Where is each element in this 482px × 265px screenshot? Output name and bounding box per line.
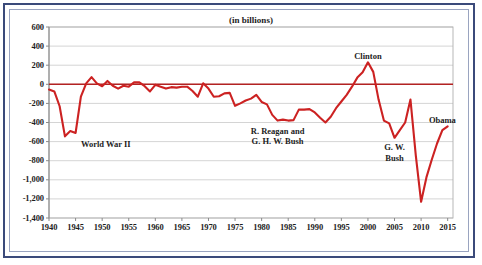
y-axis-tick-label: -200 bbox=[4, 98, 44, 108]
y-axis-tick-label: -400 bbox=[4, 117, 44, 127]
y-axis-tick-label: -1,400 bbox=[4, 213, 44, 223]
y-axis-tick-label: -800 bbox=[4, 155, 44, 165]
y-axis-tick-label: -1,200 bbox=[4, 193, 44, 203]
annotation-reagan-ghw-bush: R. Reagan andG. H. W. Bush bbox=[238, 126, 318, 147]
annotation-clinton: Clinton bbox=[328, 51, 408, 62]
y-axis-tick-label: 400 bbox=[4, 41, 44, 51]
y-axis-tick-label: 0 bbox=[4, 79, 44, 89]
deficit-line-chart: (in billions)6004002000-200-400-600-800-… bbox=[0, 0, 482, 265]
y-axis-tick-label: 600 bbox=[4, 22, 44, 32]
annotation-gw-bush: G. W.Bush bbox=[355, 142, 435, 163]
y-axis-tick-label: 200 bbox=[4, 60, 44, 70]
chart-title: (in billions) bbox=[49, 15, 453, 25]
annotation-obama: Obama bbox=[402, 115, 482, 126]
annotation-world-war-2: World War II bbox=[81, 139, 131, 150]
y-axis-tick-label: -1,000 bbox=[4, 174, 44, 184]
x-axis-tick-label: 2015 bbox=[432, 222, 464, 232]
y-axis-tick-label: -600 bbox=[4, 136, 44, 146]
